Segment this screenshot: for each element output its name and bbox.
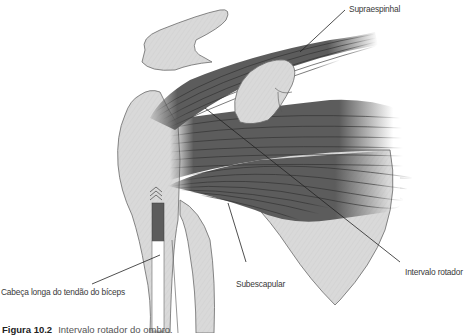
figure-caption: Figura 10.2Intervalo rotador do ombro. [2,324,173,335]
label-intervalo-rotador: Intervalo rotador [405,266,463,277]
label-subescapular: Subescapular [236,278,285,289]
leader-subescapular [228,203,246,262]
acromion [142,10,228,71]
biceps-tendon [150,187,164,331]
label-biceps-tendon: Cabeça longa do tendão do bíceps [1,286,125,297]
label-supraespinhal: Supraespinhal [349,3,400,14]
figure-number: Figura 10.2 [2,324,52,335]
figure-caption-text: Intervalo rotador do ombro. [58,324,173,335]
